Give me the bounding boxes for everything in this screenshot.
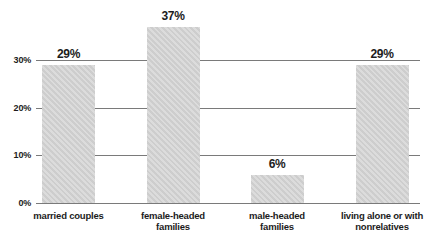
plot-area: 0%10%20%30%29%married couples37%female-h… <box>0 0 439 251</box>
bar-value-label: 29% <box>352 48 412 60</box>
bar-value-label: 6% <box>247 158 307 170</box>
bar <box>147 27 200 203</box>
category-label: female-headed families <box>118 210 228 232</box>
category-label: male-headed families <box>222 210 332 232</box>
y-tick-label: 0% <box>0 199 31 208</box>
bar <box>251 175 304 204</box>
bar <box>356 65 409 203</box>
category-label: living alone or with nonrelatives <box>327 210 437 232</box>
y-tick-label: 20% <box>0 104 31 113</box>
category-label: married couples <box>14 210 124 221</box>
y-tick-label: 10% <box>0 151 31 160</box>
bar-value-label: 37% <box>143 10 203 22</box>
bar <box>42 65 95 203</box>
y-tick-label: 30% <box>0 56 31 65</box>
bar-chart: 0%10%20%30%29%married couples37%female-h… <box>0 0 439 251</box>
bar-value-label: 29% <box>39 48 99 60</box>
